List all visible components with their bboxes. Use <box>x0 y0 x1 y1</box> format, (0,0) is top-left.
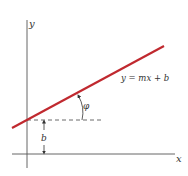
x-axis-label: x <box>176 153 182 164</box>
angle-phi-label: φ <box>83 101 90 111</box>
intercept-b-label: b <box>41 133 47 143</box>
y-axis-label: y <box>28 18 35 29</box>
line-diagram: y x y = mx + b φ b <box>0 0 188 176</box>
equation-label: y = mx + b <box>120 73 169 83</box>
line-y-mx-b <box>12 46 164 128</box>
